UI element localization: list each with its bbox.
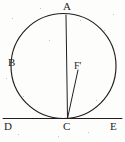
point-label-f: F' (74, 60, 81, 71)
circle-outline (11, 14, 116, 119)
segment-c-to-f (68, 70, 78, 118)
point-label-a: A (63, 1, 71, 12)
point-label-e: E (110, 121, 117, 132)
point-label-c: C (63, 121, 70, 132)
geometric-figure: A B F' C D E (0, 0, 125, 142)
point-label-b: B (8, 57, 15, 68)
segment-diameter-ac (66, 15, 68, 118)
point-label-d: D (4, 121, 12, 132)
